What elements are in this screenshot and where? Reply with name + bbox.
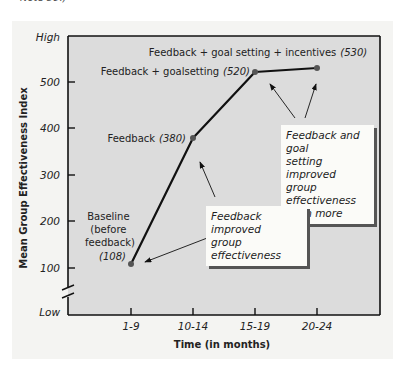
y-tick-labels: High 500 400 300 200 100 Low <box>36 31 61 318</box>
data-point-20-24 <box>314 65 320 71</box>
data-point-10-14 <box>190 135 196 141</box>
svg-text:Low: Low <box>39 306 60 318</box>
svg-text:100: 100 <box>40 262 60 274</box>
point-label-feedback: Feedback(380) <box>107 133 186 144</box>
svg-text:200: 200 <box>40 215 60 227</box>
svg-text:15-19: 15-19 <box>240 320 271 332</box>
point-label-feedback-goalsetting: Feedback + goalsetting(520) <box>101 66 250 77</box>
annotation-feedback-improved: Feedback improved group effectiveness <box>206 206 307 266</box>
x-axis-title: Time (in months) <box>174 339 270 350</box>
svg-text:300: 300 <box>40 169 60 181</box>
svg-text:High: High <box>36 31 60 43</box>
y-axis-title: Mean Group Effectiveness Index <box>18 87 29 269</box>
point-value-baseline: (108) <box>99 251 126 262</box>
data-point-1-9 <box>128 261 134 267</box>
data-point-15-19 <box>252 69 258 75</box>
svg-text:400: 400 <box>40 122 60 134</box>
svg-text:20-24: 20-24 <box>302 320 333 332</box>
point-label-incentives: Feedback + goal setting + incentives(530… <box>149 47 367 58</box>
svg-text:500: 500 <box>40 76 60 88</box>
svg-text:1-9: 1-9 <box>122 320 139 332</box>
svg-text:10-14: 10-14 <box>178 320 209 332</box>
x-tick-labels: 1-9 10-14 15-19 20-24 <box>122 320 332 332</box>
point-label-baseline: Baseline (before feedback) <box>85 211 135 248</box>
